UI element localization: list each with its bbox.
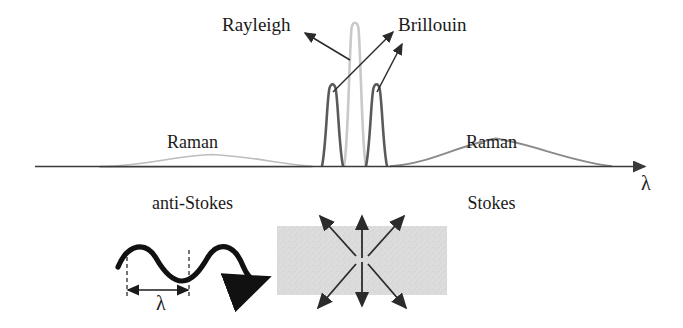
curve-rayleigh-peak xyxy=(344,23,366,166)
label-lambda-axis: λ xyxy=(641,172,651,194)
label-raman-stokes: Raman Stokes xyxy=(466,92,517,253)
label-raman-stokes-line1: Raman xyxy=(466,132,517,152)
label-raman-anti-stokes-line1: Raman xyxy=(152,132,233,152)
label-raman-anti-stokes: Raman anti-Stokes xyxy=(152,92,233,253)
label-brillouin: Brillouin xyxy=(398,14,467,35)
spectrum-layer xyxy=(0,0,683,328)
label-rayleigh: Rayleigh xyxy=(222,14,291,35)
label-raman-anti-stokes-line2: anti-Stokes xyxy=(152,193,233,213)
curve-brillouin-right xyxy=(366,84,387,166)
curve-brillouin-left xyxy=(322,84,343,166)
figure-canvas: Rayleigh Brillouin Raman anti-Stokes Ram… xyxy=(0,0,683,328)
annotation-arrow-brillouin-right xyxy=(377,44,402,92)
annotation-arrow-rayleigh xyxy=(305,33,350,60)
label-lambda-wavelength: λ xyxy=(156,292,166,314)
annotation-arrow-brillouin-left xyxy=(333,32,393,92)
label-raman-stokes-line2: Stokes xyxy=(466,193,517,213)
